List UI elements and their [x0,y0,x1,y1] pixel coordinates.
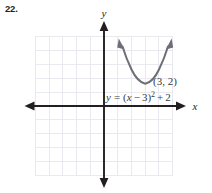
figure-container: 22. [0,0,212,193]
svg-text:y=(x−3)2+2: y=(x−3)2+2 [105,90,171,104]
x-axis-right-arrow [176,102,186,111]
equation-equals: = [114,91,120,103]
equation-minus: − [134,91,140,103]
coordinate-graph: y x (3, 2) y=(x−3)2+2 [0,0,212,193]
y-axis-label: y [101,7,107,19]
equation-plus: + [157,91,163,103]
equation-exponent: 2 [151,90,155,99]
equation-label: y=(x−3)2+2 [105,90,171,104]
vertex-point-label: (3, 2) [153,75,177,88]
y-axis-bottom-arrow [100,178,109,188]
parabola-left-arrow [117,39,124,50]
x-axis-left-arrow [25,102,35,111]
equation-k-value: 2 [165,91,171,103]
x-axis-label: x [192,100,198,112]
equation-lhs: y [105,91,111,103]
y-axis-top-arrow [100,21,109,31]
equation-variable: x [126,91,132,103]
